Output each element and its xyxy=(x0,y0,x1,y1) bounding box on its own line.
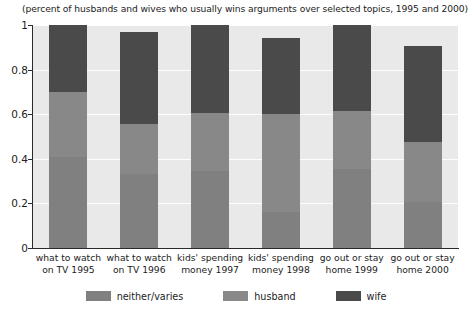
category-label-line-1: what to watch xyxy=(107,252,172,263)
y-axis-line xyxy=(32,25,33,249)
bar-segment-neither-varies[interactable] xyxy=(262,212,300,248)
legend-entry-neither-varies[interactable]: neither/varies xyxy=(86,291,184,302)
category-label-line-2: home 1999 xyxy=(316,264,387,276)
chart-legend: neither/varieshusbandwife xyxy=(0,288,472,304)
gridline xyxy=(33,114,458,115)
legend-entry-husband[interactable]: husband xyxy=(223,291,295,302)
legend-swatch xyxy=(223,291,248,301)
category-label-line-2: money 1997 xyxy=(175,264,246,276)
y-axis-tick-label: 0.2 xyxy=(11,197,28,209)
legend-swatch xyxy=(86,291,111,301)
bar-segment-neither-varies[interactable] xyxy=(333,169,371,248)
bar-segment-husband[interactable] xyxy=(404,142,442,202)
x-axis-category-label: what to watchon TV 1995 xyxy=(33,252,104,275)
gridline xyxy=(33,203,458,204)
bar-segment-husband[interactable] xyxy=(333,111,371,169)
x-axis-category-label: go out or stayhome 2000 xyxy=(387,252,458,275)
category-label-line-1: go out or stay xyxy=(320,252,384,263)
category-label-line-2: on TV 1996 xyxy=(104,264,175,276)
y-axis-tick-label: 0.6 xyxy=(11,108,28,120)
bar-group[interactable] xyxy=(404,25,442,248)
y-axis-tick-mark xyxy=(28,70,32,71)
x-axis-category-label: what to watchon TV 1996 xyxy=(104,252,175,275)
chart-title: (percent of husbands and wives who usual… xyxy=(22,3,468,14)
x-axis-line xyxy=(32,248,459,249)
bar-segment-wife[interactable] xyxy=(191,25,229,113)
y-axis-tick-mark xyxy=(28,203,32,204)
legend-swatch xyxy=(336,291,361,301)
bar-segment-neither-varies[interactable] xyxy=(404,202,442,248)
bar-segment-wife[interactable] xyxy=(49,25,87,92)
bar-segment-husband[interactable] xyxy=(191,113,229,171)
y-axis-tick-labels: 00.20.40.60.81 xyxy=(0,25,28,248)
y-axis-tick-label: 1 xyxy=(21,19,28,31)
legend-label: husband xyxy=(254,291,295,302)
plot-area xyxy=(33,25,458,248)
category-label-line-1: kids' spending xyxy=(248,252,314,263)
y-axis-tick-mark xyxy=(28,248,32,249)
bar-segment-neither-varies[interactable] xyxy=(49,157,87,248)
category-label-line-2: on TV 1995 xyxy=(33,264,104,276)
bar-segment-wife[interactable] xyxy=(262,38,300,114)
y-axis-tick-label: 0.8 xyxy=(11,64,28,76)
y-axis-tick-mark xyxy=(28,25,32,26)
stacked-bar-chart: (percent of husbands and wives who usual… xyxy=(0,0,472,315)
bar-segment-neither-varies[interactable] xyxy=(191,171,229,248)
y-axis-tick-label: 0 xyxy=(21,242,28,254)
bar-segment-neither-varies[interactable] xyxy=(120,174,158,248)
legend-entry-wife[interactable]: wife xyxy=(336,291,387,302)
category-label-line-1: go out or stay xyxy=(391,252,455,263)
gridline xyxy=(33,70,458,71)
bar-segment-husband[interactable] xyxy=(49,92,87,157)
x-axis-category-label: go out or stayhome 1999 xyxy=(316,252,387,275)
bar-segment-wife[interactable] xyxy=(404,46,442,142)
bar-group[interactable] xyxy=(191,25,229,248)
gridline xyxy=(33,25,458,26)
x-axis-category-label: kids' spendingmoney 1998 xyxy=(246,252,317,275)
bar-segment-husband[interactable] xyxy=(262,114,300,212)
legend-label: neither/varies xyxy=(117,291,184,302)
bar-segment-wife[interactable] xyxy=(120,32,158,125)
bar-group[interactable] xyxy=(120,25,158,248)
bar-group[interactable] xyxy=(49,25,87,248)
y-axis-tick-mark xyxy=(28,114,32,115)
bar-segment-wife[interactable] xyxy=(333,25,371,111)
category-label-line-2: home 2000 xyxy=(387,264,458,276)
gridline xyxy=(33,159,458,160)
bar-segment-husband[interactable] xyxy=(120,124,158,174)
legend-label: wife xyxy=(367,291,387,302)
category-label-line-1: kids' spending xyxy=(177,252,243,263)
bar-group[interactable] xyxy=(262,25,300,248)
y-axis-tick-label: 0.4 xyxy=(11,153,28,165)
category-label-line-2: money 1998 xyxy=(246,264,317,276)
category-label-line-1: what to watch xyxy=(36,252,101,263)
x-axis-category-label: kids' spendingmoney 1997 xyxy=(175,252,246,275)
y-axis-tick-mark xyxy=(28,159,32,160)
bar-group[interactable] xyxy=(333,25,371,248)
